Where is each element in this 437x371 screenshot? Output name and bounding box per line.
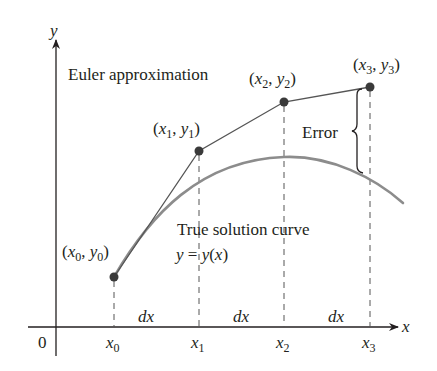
- error-label: Error: [302, 123, 338, 142]
- tick-x2: x2: [275, 333, 290, 355]
- true-solution-curve: [114, 157, 403, 277]
- euler-method-diagram: Euler approximation Error True solution …: [0, 0, 437, 371]
- point-2-label: (x2, y2): [249, 69, 296, 91]
- euler-approximation-line: [114, 87, 370, 277]
- true-curve-equation: y = y(x): [174, 245, 228, 264]
- point-1-label: (x1, y1): [153, 119, 200, 141]
- origin-label: 0: [38, 333, 47, 352]
- point-3-label: (x3, y3): [353, 55, 400, 77]
- error-brace-icon: [352, 89, 363, 173]
- euler-approximation-label: Euler approximation: [68, 65, 209, 84]
- point-0-label: (x0, y0): [62, 242, 109, 264]
- dx-label-1: dx: [138, 307, 155, 326]
- dx-label-2: dx: [233, 307, 250, 326]
- point-0: [110, 273, 119, 282]
- x-axis-label: x: [401, 317, 410, 336]
- tick-x0: x0: [105, 333, 120, 355]
- y-axis-label: y: [48, 21, 58, 40]
- point-3: [366, 83, 375, 92]
- tick-x1: x1: [190, 333, 205, 355]
- tick-x3: x3: [361, 333, 376, 355]
- point-1: [195, 147, 204, 156]
- point-2: [280, 98, 289, 107]
- true-curve-label: True solution curve: [177, 220, 310, 239]
- dx-label-3: dx: [328, 307, 345, 326]
